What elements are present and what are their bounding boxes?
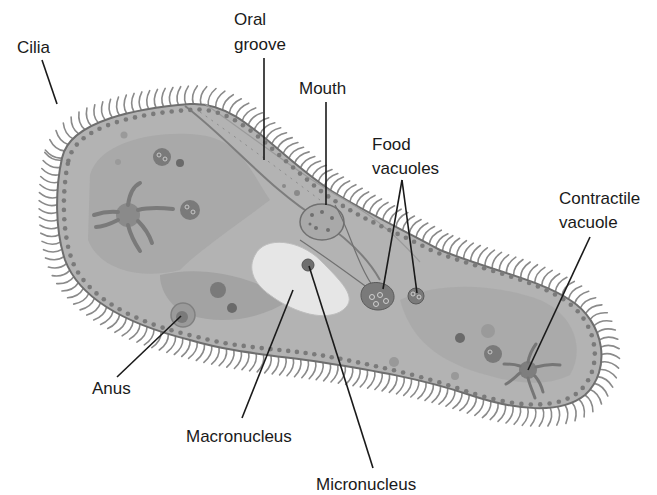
label-oral-groove-line2: groove [234,35,286,54]
label-micronucleus: Micronucleus [316,475,416,494]
label-mouth: Mouth [299,79,346,98]
leader-cilia [42,60,57,104]
label-macronucleus: Macronucleus [186,427,292,446]
label-contractile-vacuole-line2: vacuole [559,213,618,232]
cell-body [57,104,601,408]
label-food-vacuoles-line2: vacuoles [372,159,439,178]
label-anus: Anus [92,379,131,398]
label-food-vacuoles-line1: Food [372,135,411,154]
label-contractile-vacuole-line1: Contractile [559,189,640,208]
anus [171,303,195,327]
micronucleus [302,259,314,271]
paramecium-diagram: Cilia Oral groove Mouth Food vacuoles Co… [0,0,657,495]
label-oral-groove-line1: Oral [234,10,266,29]
label-cilia: Cilia [17,38,51,57]
